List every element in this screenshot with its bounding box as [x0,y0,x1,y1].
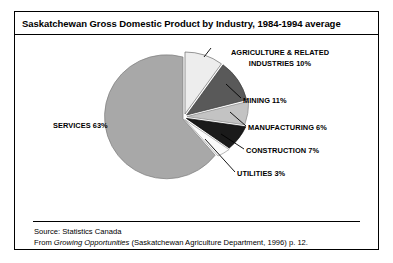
pie-label-agriculture-line1: AGRICULTURE & RELATED [205,48,355,59]
chart-footer: Source: Statistics Canada From Growing O… [34,226,366,248]
footer-source-line: Source: Statistics Canada [34,226,366,237]
pie-label-manufacturing: MANUFACTURING 6% [248,123,327,134]
chart-title-bar: Saskatchewan Gross Domestic Product by I… [15,12,378,35]
footer-citation-suffix: (Saskatchewan Agriculture Department, 19… [129,238,308,247]
pie-label-services: SERVICES 63% [53,121,108,132]
pie-label-agriculture: AGRICULTURE & RELATED INDUSTRIES 10% [205,48,355,69]
pie-label-agriculture-line2: INDUSTRIES 10% [205,59,355,70]
pie-label-mining: MINING 11% [243,96,287,107]
footer-citation-title: Growing Opportunities [54,238,130,247]
chart-figure: Saskatchewan Gross Domestic Product by I… [14,11,379,250]
footer-citation-prefix: From [34,238,54,247]
pie-plot-area: AGRICULTURE & RELATED INDUSTRIES 10% MIN… [15,35,378,202]
page-title: Saskatchewan Gross Domestic Product by I… [15,18,341,29]
footer-divider [33,221,360,222]
pie-label-construction: CONSTRUCTION 7% [246,146,319,157]
footer-citation-line: From Growing Opportunities (Saskatchewan… [34,237,366,248]
pie-slices [105,52,249,179]
pie-label-utilities: UTILITIES 3% [237,169,285,180]
